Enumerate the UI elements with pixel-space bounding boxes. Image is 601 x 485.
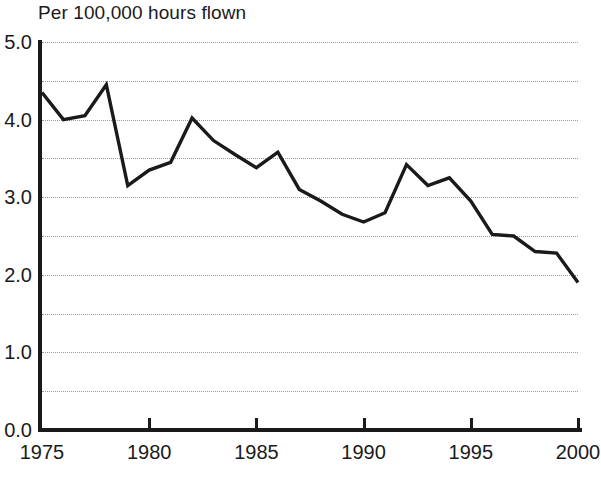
- y-axis-line: [38, 40, 42, 432]
- x-axis-line: [38, 428, 582, 432]
- y-axis-tick-label: 0.0: [4, 420, 32, 440]
- x-axis-tick-label: 2000: [556, 440, 601, 464]
- y-axis-tick-label: 1.0: [4, 342, 32, 362]
- x-axis-tick-mark: [577, 418, 580, 430]
- y-axis-tick-labels: 5.04.03.02.01.00.0: [0, 0, 36, 485]
- x-axis-tick-mark: [255, 418, 258, 430]
- y-axis-tick-label: 4.0: [4, 110, 32, 130]
- x-axis-tick-label: 1975: [20, 440, 65, 464]
- series-polyline: [42, 85, 578, 283]
- x-axis-tick-label: 1980: [127, 440, 172, 464]
- x-axis-tick-mark: [148, 418, 151, 430]
- x-axis-tick-label: 1985: [234, 440, 279, 464]
- x-axis-tick-mark: [363, 418, 366, 430]
- y-axis-tick-label: 5.0: [4, 32, 32, 52]
- data-series-line: [42, 42, 578, 430]
- x-axis-tick-labels: 197519801985199019952000: [0, 440, 601, 470]
- x-axis-tick-label: 1995: [449, 440, 494, 464]
- y-axis-tick-label: 3.0: [4, 187, 32, 207]
- x-axis-tick-label: 1990: [341, 440, 386, 464]
- chart-container: Per 100,000 hours flown 5.04.03.02.01.00…: [0, 0, 601, 485]
- x-axis-tick-mark: [470, 418, 473, 430]
- chart-title: Per 100,000 hours flown: [38, 1, 246, 25]
- plot-area: [42, 42, 578, 430]
- y-axis-tick-label: 2.0: [4, 265, 32, 285]
